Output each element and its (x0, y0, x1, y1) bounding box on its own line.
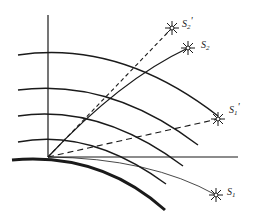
label-s2-apparent: S2' (182, 15, 194, 31)
earth-surface (12, 159, 165, 210)
ray-s1-apparent (48, 119, 218, 157)
star-icon-s1 (209, 188, 223, 202)
label-s1: S1 (227, 186, 236, 199)
label-s1-apparent: S1' (229, 101, 241, 117)
star-icon-s1-apparent (211, 112, 225, 126)
refraction-diagram: S2' S2 S1' S1 (0, 0, 255, 224)
atmosphere-layer-3 (18, 88, 198, 145)
label-s2: S2 (201, 39, 210, 52)
star-icon-s2-apparent (165, 21, 179, 35)
atmosphere-layer-1 (18, 139, 166, 184)
star-icon-s2 (181, 41, 195, 55)
